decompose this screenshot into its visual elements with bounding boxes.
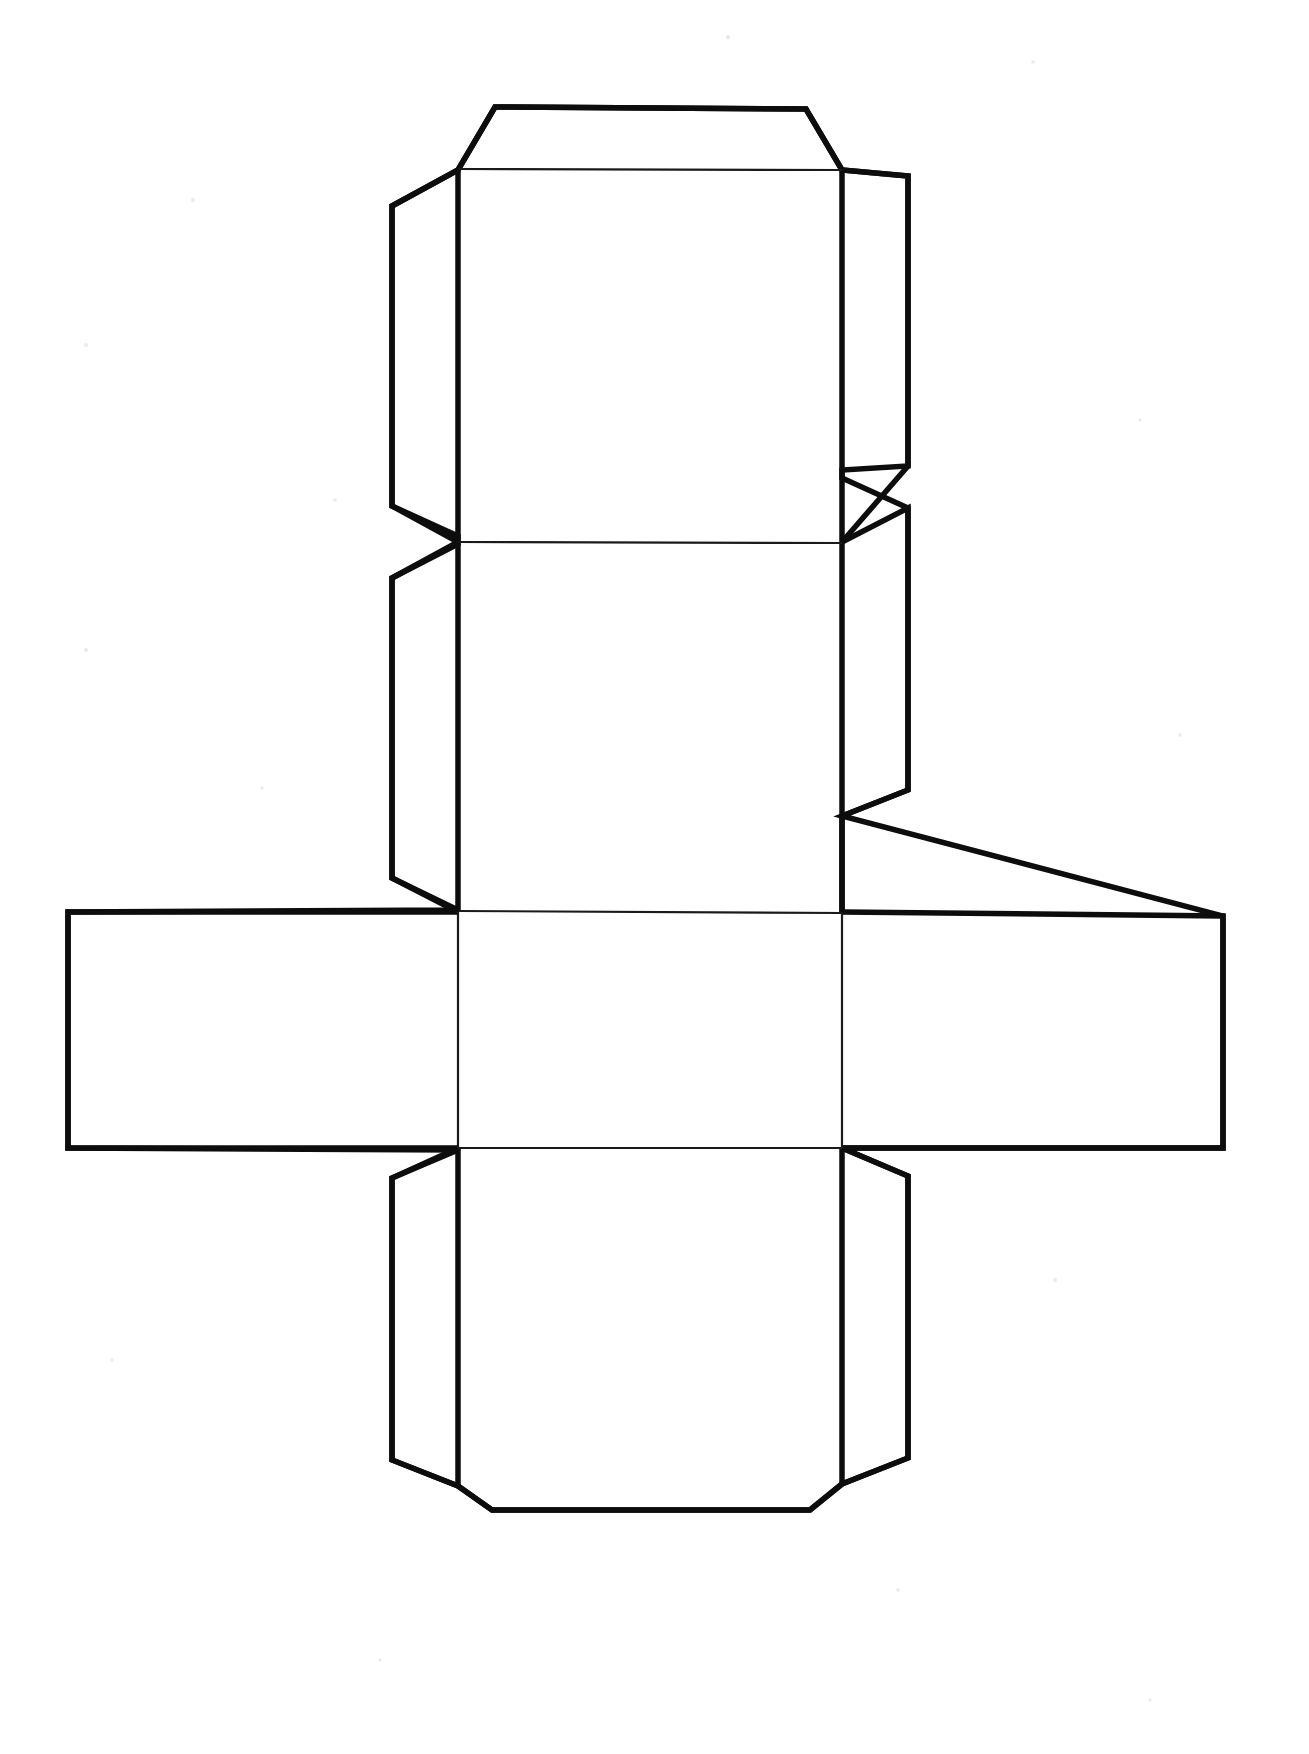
top-face-region: [458, 168, 842, 542]
right-face-region: [842, 912, 1223, 1148]
upper-middle-face-region: [458, 542, 842, 912]
bottom-face-region: [458, 1148, 842, 1490]
center-face-region: [458, 912, 842, 1148]
page-canvas: Cube Net Cut-Out Template Line-art only …: [0, 0, 1309, 1754]
left-face-region: [68, 912, 458, 1148]
top-glue-tab-region: [458, 107, 842, 170]
